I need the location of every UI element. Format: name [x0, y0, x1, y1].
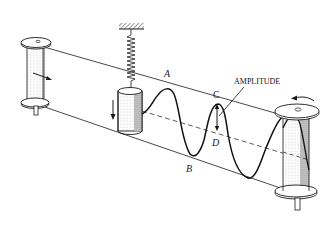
tape-bottom-edge — [36, 104, 292, 192]
spring-assembly — [119, 23, 144, 88]
amplitude-leader — [219, 87, 244, 116]
wave-trace — [142, 89, 304, 188]
label-d: D — [211, 137, 220, 148]
wave-apparatus-diagram: A C D B AMPLITUDE — [0, 0, 330, 226]
left-spool — [21, 38, 52, 116]
rotation-arrow-icon — [291, 96, 314, 102]
spring-coil — [127, 35, 135, 81]
label-c: C — [213, 89, 220, 100]
weight — [111, 88, 143, 135]
centerline — [142, 111, 296, 157]
ceiling-mount — [119, 23, 144, 29]
label-b: B — [186, 163, 192, 174]
arrow-down-icon — [111, 100, 116, 120]
label-amplitude: AMPLITUDE — [234, 77, 280, 86]
label-a: A — [163, 68, 171, 79]
